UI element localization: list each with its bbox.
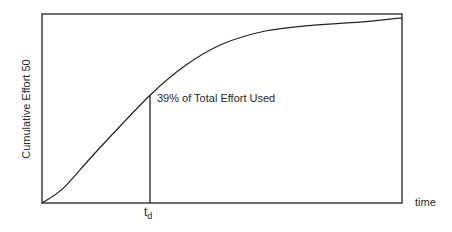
- td-tick-label: td: [144, 205, 152, 221]
- chart-canvas: [0, 0, 452, 232]
- y-axis-label: Cumulative Effort 50: [20, 59, 32, 158]
- annotation-39-percent: 39% of Total Effort Used: [157, 92, 275, 104]
- x-axis-label: time: [415, 196, 436, 208]
- cumulative-effort-curve: [42, 18, 402, 203]
- plot-frame: [42, 14, 402, 203]
- td-subscript: d: [147, 211, 152, 221]
